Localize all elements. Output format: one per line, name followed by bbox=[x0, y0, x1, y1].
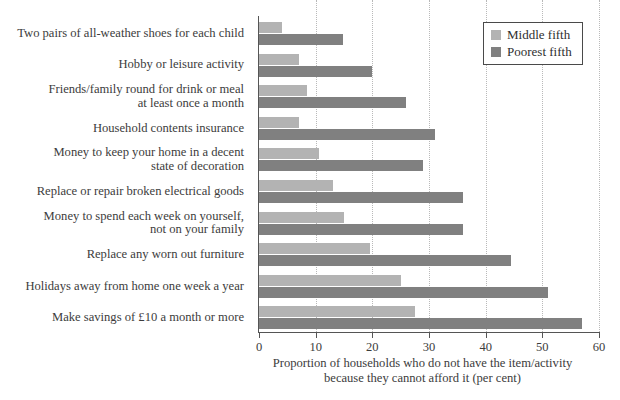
bar-middle-fifth bbox=[259, 117, 299, 128]
x-tick-30 bbox=[429, 332, 430, 338]
legend-label-middle-fifth: Middle fifth bbox=[507, 28, 570, 42]
x-tick-60 bbox=[599, 332, 600, 338]
bar-poorest-fifth bbox=[259, 34, 343, 45]
category-label-line: not on your family bbox=[0, 223, 244, 237]
category-label: Friends/family round for drink or mealat… bbox=[0, 83, 244, 110]
x-tick-10 bbox=[316, 332, 317, 338]
x-axis-title-line-2: because they cannot afford it (per cent) bbox=[225, 371, 620, 386]
x-tick-label-60: 60 bbox=[593, 340, 606, 355]
category-label: Household contents insurance bbox=[0, 122, 244, 136]
x-tick-0 bbox=[259, 332, 260, 338]
category-label: Holidays away from home one week a year bbox=[0, 280, 244, 294]
x-tick-20 bbox=[372, 332, 373, 338]
legend-swatch-middle-fifth bbox=[491, 30, 501, 40]
x-tick-label-20: 20 bbox=[366, 340, 379, 355]
x-tick-label-10: 10 bbox=[309, 340, 322, 355]
x-tick-label-0: 0 bbox=[256, 340, 262, 355]
category-label-line: Hobby or leisure activity bbox=[0, 58, 244, 72]
category-label-line: Two pairs of all-weather shoes for each … bbox=[0, 27, 244, 41]
x-tick-label-40: 40 bbox=[479, 340, 492, 355]
bar-middle-fifth bbox=[259, 275, 401, 286]
category-label: Hobby or leisure activity bbox=[0, 58, 244, 72]
x-tick-label-30: 30 bbox=[423, 340, 436, 355]
bar-row bbox=[259, 180, 599, 203]
legend-item-poorest-fifth: Poorest fifth bbox=[491, 45, 572, 59]
bar-poorest-fifth bbox=[259, 66, 372, 77]
x-tick-50 bbox=[542, 332, 543, 338]
category-label-line: Money to keep your home in a decent bbox=[0, 146, 244, 160]
bar-middle-fifth bbox=[259, 148, 319, 159]
bar-poorest-fifth bbox=[259, 97, 406, 108]
bar-row bbox=[259, 243, 599, 266]
bar-middle-fifth bbox=[259, 306, 415, 317]
legend-swatch-poorest-fifth bbox=[491, 47, 501, 57]
bar-row bbox=[259, 148, 599, 171]
category-label-line: Replace or repair broken electrical good… bbox=[0, 185, 244, 199]
category-label-line: Friends/family round for drink or meal bbox=[0, 83, 244, 97]
legend-item-middle-fifth: Middle fifth bbox=[491, 28, 572, 42]
bar-row bbox=[259, 85, 599, 108]
bar-middle-fifth bbox=[259, 85, 307, 96]
bar-poorest-fifth bbox=[259, 255, 511, 266]
x-tick-40 bbox=[486, 332, 487, 338]
bar-middle-fifth bbox=[259, 22, 282, 33]
bar-row bbox=[259, 212, 599, 235]
category-label: Money to spend each week on yourself,not… bbox=[0, 210, 244, 237]
category-label: Replace any worn out furniture bbox=[0, 248, 244, 262]
bar-middle-fifth bbox=[259, 54, 299, 65]
bar-row bbox=[259, 117, 599, 140]
x-axis-title-line-1: Proportion of households who do not have… bbox=[225, 356, 620, 371]
bar-poorest-fifth bbox=[259, 192, 463, 203]
category-label-line: Holidays away from home one week a year bbox=[0, 280, 244, 294]
gridline-60 bbox=[599, 0, 600, 332]
legend-label-poorest-fifth: Poorest fifth bbox=[507, 45, 572, 59]
category-label: Money to keep your home in a decentstate… bbox=[0, 146, 244, 173]
bar-row bbox=[259, 275, 599, 298]
bar-middle-fifth bbox=[259, 243, 370, 254]
bar-poorest-fifth bbox=[259, 318, 582, 329]
bar-middle-fifth bbox=[259, 180, 333, 191]
bar-poorest-fifth bbox=[259, 129, 435, 140]
category-label-line: Money to spend each week on yourself, bbox=[0, 210, 244, 224]
category-label-line: state of decoration bbox=[0, 160, 244, 174]
bar-poorest-fifth bbox=[259, 287, 548, 298]
category-label: Two pairs of all-weather shoes for each … bbox=[0, 27, 244, 41]
category-label-line: Replace any worn out furniture bbox=[0, 248, 244, 262]
x-tick-label-50: 50 bbox=[536, 340, 549, 355]
category-label: Make savings of £10 a month or more bbox=[0, 311, 244, 325]
category-label-line: Make savings of £10 a month or more bbox=[0, 311, 244, 325]
bar-row bbox=[259, 306, 599, 329]
bar-poorest-fifth bbox=[259, 224, 463, 235]
category-label-line: Household contents insurance bbox=[0, 122, 244, 136]
bar-poorest-fifth bbox=[259, 160, 423, 171]
bar-middle-fifth bbox=[259, 212, 344, 223]
category-label: Replace or repair broken electrical good… bbox=[0, 185, 244, 199]
legend: Middle fifth Poorest fifth bbox=[483, 22, 583, 65]
x-axis-title: Proportion of households who do not have… bbox=[225, 356, 620, 386]
category-label-line: at least once a month bbox=[0, 97, 244, 111]
horizontal-bar-chart: Two pairs of all-weather shoes for each … bbox=[0, 0, 620, 400]
